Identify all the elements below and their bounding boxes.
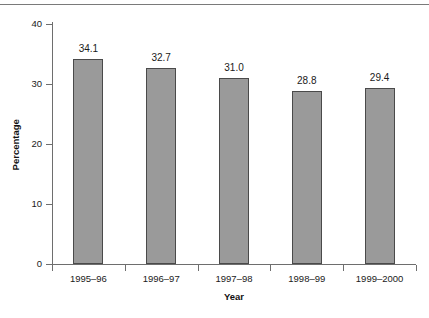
y-axis-tick bbox=[46, 144, 52, 145]
x-axis-tick-label: 1998–99 bbox=[265, 274, 349, 284]
x-axis-tick bbox=[52, 265, 53, 271]
x-axis-tick-label: 1997–98 bbox=[192, 274, 276, 284]
y-axis-line bbox=[52, 22, 53, 265]
y-axis-title: Percentage bbox=[11, 105, 21, 185]
bar-value-label: 31.0 bbox=[204, 63, 264, 73]
bar-value-label: 32.7 bbox=[131, 53, 191, 63]
y-axis-tick-label-wrap: 30 bbox=[12, 79, 42, 89]
y-axis-tick bbox=[46, 24, 52, 25]
bar bbox=[292, 91, 322, 264]
y-axis-tick-label-wrap: 40 bbox=[12, 19, 42, 29]
y-axis-tick-label: 30 bbox=[12, 79, 42, 89]
x-axis-tick-label: 1995–96 bbox=[46, 274, 130, 284]
y-axis-tick-label: 0 bbox=[12, 259, 42, 269]
bar-value-label: 28.8 bbox=[277, 76, 337, 86]
bar bbox=[146, 68, 176, 264]
y-axis-tick-label: 40 bbox=[12, 19, 42, 29]
y-axis-tick-label-wrap: 0 bbox=[12, 259, 42, 269]
x-axis-tick-label: 1999–2000 bbox=[338, 274, 422, 284]
x-axis-line bbox=[52, 264, 416, 265]
x-axis-tick bbox=[125, 265, 126, 271]
bar bbox=[365, 88, 395, 264]
x-axis-tick-label: 1996–97 bbox=[119, 274, 203, 284]
y-axis-tick-label-wrap: 10 bbox=[12, 199, 42, 209]
bar-value-label: 29.4 bbox=[350, 73, 410, 83]
x-axis-tick bbox=[198, 265, 199, 271]
x-axis-title: Year bbox=[52, 292, 416, 302]
y-axis-tick-label: 10 bbox=[12, 199, 42, 209]
x-axis-tick bbox=[270, 265, 271, 271]
y-axis-tick bbox=[46, 204, 52, 205]
bar bbox=[219, 78, 249, 264]
x-axis-tick bbox=[343, 265, 344, 271]
y-axis-tick bbox=[46, 84, 52, 85]
x-axis-tick bbox=[416, 265, 417, 271]
bar bbox=[73, 59, 103, 264]
top-divider-rule bbox=[0, 4, 429, 5]
bar-chart-figure: 010203040 34.132.731.028.829.4 1995–9619… bbox=[0, 0, 429, 318]
bar-value-label: 34.1 bbox=[58, 44, 118, 54]
